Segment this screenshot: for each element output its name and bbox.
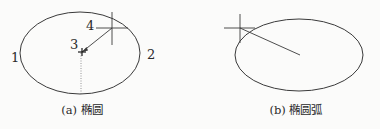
point-label-1: 1 [11, 51, 19, 64]
point-label-2: 2 [147, 48, 155, 61]
ellipse-figure: 1 2 3 4 (a) 椭圆 (b) 椭圆弧 [0, 0, 380, 129]
point-label-4: 4 [86, 19, 94, 32]
caption-figure-b: (b) 椭圆弧 [270, 105, 323, 117]
ellipse-shape [20, 12, 140, 94]
crosshair-cursor-icon [96, 12, 128, 45]
cad-drawing-canvas [0, 0, 380, 129]
figure-b-elliptical-arc-drawing [224, 14, 363, 91]
caption-figure-a: (a) 椭圆 [61, 105, 103, 117]
figure-a-ellipse-drawing [20, 12, 140, 94]
arc-angle-rubber-band-line [240, 28, 300, 55]
point-label-3: 3 [70, 38, 78, 51]
crosshair-cursor-icon [224, 14, 255, 43]
